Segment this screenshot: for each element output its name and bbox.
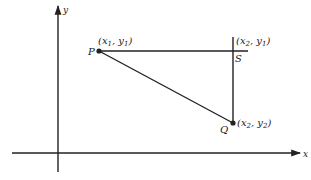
right-triangle-diagram: y x P (x1, y1) S (x2, y1) Q (x2, y2) xyxy=(0,0,311,180)
point-q-label: Q xyxy=(220,124,228,135)
point-p-dot xyxy=(96,48,101,53)
x-axis-label: x xyxy=(303,149,308,159)
segment-pq xyxy=(99,51,233,123)
point-p-coords: (x1, y1) xyxy=(98,35,133,48)
y-axis-label: y xyxy=(62,5,69,15)
point-s-coords: (x2, y1) xyxy=(236,35,271,48)
point-p-label: P xyxy=(87,46,95,57)
point-q-dot xyxy=(230,120,235,125)
point-q-coords: (x2, y2) xyxy=(237,117,272,130)
point-s-label: S xyxy=(235,53,242,64)
